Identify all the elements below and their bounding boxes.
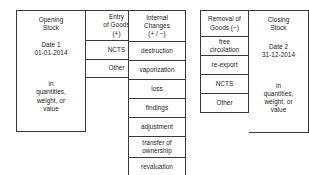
removal-of-goods-title-cell: Removal of Goods (−) — [201, 11, 248, 36]
closing-stock-title-line2: Stock — [268, 24, 290, 32]
removal-of-goods-other-cell: Other — [201, 93, 248, 112]
internal-changes-transfer-cell: transfer of ownership — [129, 136, 185, 157]
removal-and-closing-group: Removal of Goods (−) free circulation re… — [200, 10, 309, 133]
entry-of-goods-title-sign: (+) — [103, 30, 129, 38]
removal-of-goods-free-line2: circulation — [210, 46, 239, 54]
internal-changes-destruction-label: destruction — [141, 47, 173, 55]
closing-stock-units-line1: in — [264, 82, 294, 90]
internal-changes-vaporization-cell: vaporization — [129, 60, 185, 79]
internal-changes-revaluation-cell: revaluation — [129, 157, 185, 175]
closing-stock-column: Closing Stock Date 2 31-12-2014 in quant… — [249, 10, 309, 133]
internal-changes-loss-cell: loss — [129, 79, 185, 98]
closing-stock-date-label: Date 2 — [262, 43, 295, 51]
opening-stock-date-cell: Date 1 01-01-2014 — [17, 37, 85, 63]
opening-stock-units-line4: value — [36, 105, 66, 113]
removal-of-goods-ncts-cell: NCTS — [201, 74, 248, 93]
removal-of-goods-other-label: Other — [216, 99, 232, 107]
stock-records-diagram: Opening Stock Date 1 01-01-2014 in quant… — [0, 0, 309, 175]
internal-changes-group: Internal Changes (+ / −) destruction vap… — [128, 10, 186, 175]
closing-stock-units-line3: weight, or — [264, 98, 294, 106]
entry-of-goods-ncts-label: NCTS — [108, 46, 126, 54]
opening-stock-units-line3: weight, or — [36, 97, 66, 105]
closing-stock-date-cell: Date 2 31-12-2014 — [249, 38, 308, 65]
internal-changes-column: Internal Changes (+ / −) destruction vap… — [128, 10, 186, 175]
closing-stock-units-line2: quantities, — [264, 90, 294, 98]
entry-of-goods-other-label: Other — [108, 64, 124, 72]
closing-stock-title-line1: Closing — [268, 16, 290, 24]
internal-changes-transfer-line2: ownership — [142, 147, 172, 155]
closing-stock-date-value: 31-12-2014 — [262, 51, 295, 59]
closing-stock-units-line4: value — [264, 106, 294, 114]
removal-of-goods-free-line1: free — [210, 38, 239, 46]
internal-changes-adjustment-cell: adjustment — [129, 117, 185, 136]
opening-stock-title-cell: Opening Stock — [17, 11, 85, 37]
internal-changes-title-line2: Changes — [144, 22, 170, 30]
removal-of-goods-column: Removal of Goods (−) free circulation re… — [200, 10, 249, 113]
closing-stock-title-cell: Closing Stock — [249, 11, 308, 38]
internal-changes-vaporization-label: vaporization — [139, 66, 174, 74]
opening-stock-column: Opening Stock Date 1 01-01-2014 in quant… — [16, 10, 86, 132]
entry-of-goods-title-line1: Entry — [103, 13, 129, 21]
internal-changes-title-line1: Internal — [144, 14, 170, 22]
opening-stock-date-label: Date 1 — [34, 41, 67, 49]
opening-stock-units-cell: in quantities, weight, or value — [17, 62, 85, 131]
removal-of-goods-free-circulation-cell: free circulation — [201, 36, 248, 55]
opening-stock-title-line2: Stock — [39, 24, 64, 32]
entry-of-goods-title-line2: of Goods — [103, 21, 129, 29]
internal-changes-destruction-cell: destruction — [129, 41, 185, 60]
removal-of-goods-ncts-label: NCTS — [216, 80, 234, 88]
internal-changes-findings-cell: findings — [129, 98, 185, 117]
internal-changes-title-sign: (+ / −) — [144, 30, 170, 38]
opening-stock-date-value: 01-01-2014 — [34, 49, 67, 57]
removal-of-goods-reexport-cell: re-export — [201, 55, 248, 74]
opening-stock-units-line1: in — [36, 80, 66, 88]
removal-of-goods-reexport-label: re-export — [211, 61, 237, 69]
internal-changes-loss-label: loss — [151, 85, 163, 93]
removal-of-goods-title-line2: Goods (−) — [208, 24, 241, 32]
removal-of-goods-title-line1: Removal of — [208, 15, 241, 23]
internal-changes-findings-label: findings — [146, 104, 168, 112]
internal-changes-transfer-line1: transfer of — [142, 139, 172, 147]
closing-stock-units-cell: in quantities, weight, or value — [249, 64, 308, 132]
opening-stock-units-line2: quantities, — [36, 88, 66, 96]
internal-changes-title-cell: Internal Changes (+ / −) — [129, 11, 185, 41]
internal-changes-adjustment-label: adjustment — [141, 123, 173, 131]
internal-changes-revaluation-label: revaluation — [141, 163, 173, 171]
opening-stock-title-line1: Opening — [39, 16, 64, 24]
